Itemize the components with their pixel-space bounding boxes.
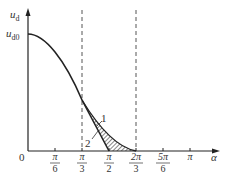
tick-pi-2: π 2 <box>104 151 114 174</box>
svg-text:3: 3 <box>80 163 85 174</box>
tick-pi: π <box>187 151 193 162</box>
svg-text:5π: 5π <box>158 151 169 162</box>
tick-pi-6: π 6 <box>50 151 60 174</box>
svg-text:2: 2 <box>107 163 112 174</box>
svg-text:3: 3 <box>134 163 139 174</box>
curve-1-label: 1 <box>101 112 107 124</box>
origin-label: 0 <box>19 151 25 163</box>
svg-text:6: 6 <box>161 163 166 174</box>
curve-2-leader <box>92 131 98 139</box>
x-axis-label: α <box>211 151 217 163</box>
svg-text:π: π <box>52 151 58 162</box>
y-axis <box>26 8 31 151</box>
y-axis-arrow-icon <box>26 8 31 16</box>
tick-2pi-3: 2π 3 <box>129 151 143 174</box>
curve-2-label: 2 <box>85 137 91 149</box>
curve-main <box>28 34 82 100</box>
svg-text:π: π <box>187 151 193 162</box>
y-value-label: ud0 <box>6 27 20 42</box>
y-axis-label: ud <box>10 8 20 23</box>
svg-text:π: π <box>79 151 85 162</box>
svg-text:π: π <box>106 151 112 162</box>
tick-pi-3: π 3 <box>77 151 87 174</box>
svg-text:6: 6 <box>53 163 58 174</box>
svg-text:2π: 2π <box>131 151 142 162</box>
tick-5pi-6: 5π 6 <box>156 151 170 174</box>
waveform-diagram: 1 2 ud ud0 0 α π 6 π 3 π 2 2π 3 5π 6 π <box>0 0 238 183</box>
